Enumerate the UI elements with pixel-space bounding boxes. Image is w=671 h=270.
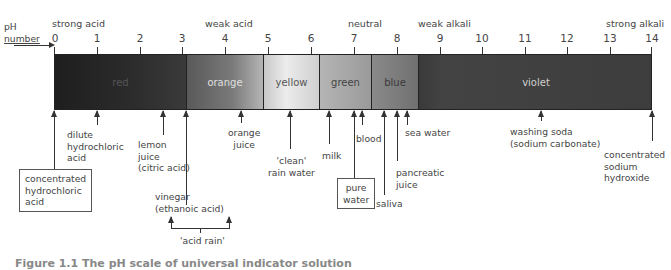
- acid-rain-stem: [200, 228, 201, 233]
- arrow-pure-water-icon: [354, 111, 355, 179]
- clean-rain-water-label: 'clean' rain water: [268, 155, 315, 178]
- arrow-clean-rain-icon: [290, 111, 291, 149]
- band-yellow: yellow: [264, 55, 320, 109]
- tick-label: 4: [222, 32, 229, 44]
- tick-label: 13: [603, 32, 616, 44]
- band-label-violet: violet: [522, 77, 550, 88]
- tick-label: 11: [518, 32, 531, 44]
- arrow-orange-juice-icon: [241, 111, 242, 123]
- band-orange: orange: [187, 55, 264, 109]
- pure-water-box: pure water: [337, 178, 375, 209]
- tick-label: 0: [52, 32, 59, 44]
- washing-soda-label: washing soda (sodium carbonate): [510, 126, 600, 149]
- vinegar-label: vinegar (ethanoic acid): [155, 191, 224, 214]
- axis-pointer-arrow-icon: [14, 45, 50, 46]
- band-label-red: red: [112, 77, 128, 88]
- tick-label: 1: [94, 32, 101, 44]
- conc-hcl-box: concentrated hydrochloric acid: [19, 169, 92, 212]
- dilute-hcl-label: dilute hydrochloric acid: [67, 129, 124, 164]
- tick-label: 3: [179, 32, 186, 44]
- tick-label: 14: [645, 32, 658, 44]
- region-strong-alkali: strong alkali: [606, 18, 664, 29]
- band-label-green: green: [331, 77, 360, 88]
- acid-rain-label: 'acid rain': [180, 235, 225, 247]
- band-red: red: [55, 55, 187, 109]
- ph-number-label: pH number: [4, 21, 40, 44]
- tick-label: 10: [475, 32, 488, 44]
- saliva-label: saliva: [376, 198, 403, 210]
- arrow-sea-water-icon: [407, 111, 408, 125]
- region-strong-acid: strong acid: [52, 18, 105, 29]
- ph-colour-bar: red orange yellow green blue violet: [54, 54, 652, 110]
- orange-juice-label: orange juice: [228, 127, 260, 150]
- region-weak-alkali: weak alkali: [418, 18, 471, 29]
- tick-label: 12: [560, 32, 573, 44]
- arrow-saliva-icon: [384, 111, 385, 195]
- arrow-blood-icon: [362, 111, 363, 125]
- band-violet: violet: [419, 55, 652, 109]
- tick-label: 2: [137, 32, 144, 44]
- band-label-orange: orange: [207, 77, 242, 88]
- band-label-blue: blue: [384, 77, 406, 88]
- region-neutral: neutral: [348, 18, 382, 29]
- conc-naoh-label: concentrated sodium hydroxide: [604, 149, 665, 184]
- tick-label: 5: [265, 32, 272, 44]
- acid-rain-right-arrow-icon: [229, 217, 230, 228]
- sea-water-label: sea water: [405, 127, 450, 139]
- acid-rain-left-arrow-icon: [171, 217, 172, 228]
- pancreatic-juice-label: pancreatic juice: [396, 167, 444, 190]
- tick-label: 7: [351, 32, 358, 44]
- arrow-pancreatic-icon: [397, 111, 398, 161]
- blood-label: blood: [356, 133, 381, 145]
- ph-label-line2: number: [4, 33, 40, 45]
- ph-label-line1: pH: [4, 21, 40, 33]
- tick-label: 6: [308, 32, 315, 44]
- arrow-milk-icon: [329, 111, 330, 144]
- arrow-conc-naoh-icon: [652, 111, 653, 141]
- lemon-juice-label: lemon juice (citric acid): [138, 139, 190, 174]
- arrow-dilute-hcl-icon: [97, 111, 98, 125]
- milk-label: milk: [322, 150, 341, 162]
- band-green: green: [320, 55, 372, 109]
- tick-label: 8: [394, 32, 401, 44]
- figure-caption: Figure 1.1 The pH scale of universal ind…: [15, 257, 352, 270]
- arrow-washing-soda-icon: [541, 111, 542, 121]
- arrow-lemon-icon: [163, 111, 164, 135]
- arrow-conc-hcl-icon: [54, 111, 55, 169]
- region-weak-acid: weak acid: [205, 18, 253, 29]
- band-blue: blue: [372, 55, 419, 109]
- tick-label: 9: [437, 32, 444, 44]
- band-label-yellow: yellow: [276, 77, 308, 88]
